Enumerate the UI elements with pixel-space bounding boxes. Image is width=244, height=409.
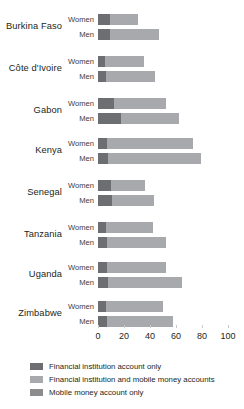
legend-label: Financial institution account only — [49, 362, 161, 371]
bar-row: Women — [0, 180, 244, 191]
bar-segment-fi-and-mm — [108, 153, 200, 164]
bar-track — [98, 262, 166, 273]
series-label-women: Women — [56, 262, 94, 273]
bar-segment-fi-only — [98, 195, 112, 206]
bar-row: Women — [0, 138, 244, 149]
series-label-men: Men — [56, 237, 94, 248]
legend-label: Mobile money account only — [49, 388, 143, 397]
series-label-men: Men — [56, 71, 94, 82]
series-label-women: Women — [56, 138, 94, 149]
bar-segment-fi-only — [98, 222, 106, 233]
legend-swatch-icon — [30, 363, 43, 371]
series-label-men: Men — [56, 195, 94, 206]
bar-segment-fi-and-mm — [106, 222, 153, 233]
bar-row: Women — [0, 14, 244, 25]
bar-segment-fi-and-mm — [106, 71, 155, 82]
x-tick-label: 40 — [145, 331, 155, 342]
bar-segment-fi-and-mm — [108, 277, 182, 288]
bar-track — [98, 153, 201, 164]
bar-row: Women — [0, 301, 244, 312]
bar-row: Men — [0, 277, 244, 288]
bar-segment-fi-and-mm — [110, 14, 139, 25]
bar-segment-fi-and-mm — [106, 301, 163, 312]
series-label-men: Men — [56, 113, 94, 124]
country-group: Côte d'IvoireWomenMen — [0, 56, 244, 84]
chart-legend: Financial institution account onlyFinanc… — [30, 361, 244, 400]
bar-track — [98, 180, 145, 191]
bar-row: Women — [0, 98, 244, 109]
x-axis: 020406080100 — [0, 325, 244, 349]
legend-label: Financial institution and mobile money a… — [49, 375, 215, 384]
bar-segment-fi-only — [98, 29, 110, 40]
bar-segment-fi-only — [98, 277, 108, 288]
bar-track — [98, 222, 153, 233]
bar-row: Women — [0, 262, 244, 273]
bar-track — [98, 56, 144, 67]
series-label-men: Men — [56, 29, 94, 40]
country-group: UgandaWomenMen — [0, 262, 244, 290]
x-tick-mark — [228, 325, 229, 328]
bar-segment-fi-and-mm — [121, 113, 178, 124]
bar-segment-fi-only — [98, 138, 107, 149]
bar-track — [98, 237, 166, 248]
x-tick-label: 20 — [119, 331, 129, 342]
series-label-women: Women — [56, 301, 94, 312]
legend-item[interactable]: Mobile money account only — [30, 387, 244, 398]
country-group: KenyaWomenMen — [0, 138, 244, 166]
bar-row: Men — [0, 153, 244, 164]
bar-track — [98, 14, 138, 25]
bar-segment-fi-and-mm — [114, 98, 166, 109]
bar-track — [98, 71, 155, 82]
bar-row: Men — [0, 195, 244, 206]
legend-swatch-icon — [30, 389, 43, 397]
bar-row: Men — [0, 71, 244, 82]
x-tick-mark — [150, 325, 151, 328]
bar-segment-fi-only — [98, 180, 111, 191]
bar-segment-fi-only — [98, 98, 114, 109]
plot-area: Burkina FasoWomenMenCôte d'IvoireWomenMe… — [0, 0, 244, 340]
x-tick-mark — [98, 325, 99, 328]
x-tick-mark — [202, 325, 203, 328]
country-group: GabonWomenMen — [0, 98, 244, 126]
x-tick-mark — [124, 325, 125, 328]
bar-track — [98, 98, 166, 109]
bar-segment-fi-only — [98, 153, 108, 164]
bar-segment-fi-and-mm — [111, 180, 145, 191]
bar-segment-fi-and-mm — [105, 56, 144, 67]
legend-item[interactable]: Financial institution account only — [30, 361, 244, 372]
bar-segment-fi-only — [98, 301, 106, 312]
bar-track — [98, 113, 179, 124]
series-label-women: Women — [56, 14, 94, 25]
series-label-women: Women — [56, 56, 94, 67]
bar-row: Women — [0, 56, 244, 67]
series-label-men: Men — [56, 153, 94, 164]
bar-segment-fi-and-mm — [107, 237, 166, 248]
series-label-women: Women — [56, 180, 94, 191]
x-tick-mark — [176, 325, 177, 328]
bar-segment-fi-only — [98, 14, 110, 25]
x-tick-label: 0 — [95, 331, 100, 342]
series-label-men: Men — [56, 277, 94, 288]
bar-track — [98, 29, 159, 40]
bar-track — [98, 138, 193, 149]
bar-row: Men — [0, 237, 244, 248]
bar-segment-fi-and-mm — [112, 195, 154, 206]
x-tick-label: 80 — [197, 331, 207, 342]
stacked-bar-chart: Burkina FasoWomenMenCôte d'IvoireWomenMe… — [0, 0, 244, 409]
country-group: TanzaniaWomenMen — [0, 222, 244, 250]
bar-row: Women — [0, 222, 244, 233]
bar-segment-fi-only — [98, 237, 107, 248]
bar-segment-fi-and-mm — [110, 29, 159, 40]
bar-row: Men — [0, 29, 244, 40]
x-tick-label: 100 — [220, 331, 235, 342]
series-label-women: Women — [56, 222, 94, 233]
bar-row: Men — [0, 113, 244, 124]
bar-segment-fi-and-mm — [107, 138, 193, 149]
series-label-women: Women — [56, 98, 94, 109]
legend-swatch-icon — [30, 376, 43, 384]
bar-track — [98, 195, 154, 206]
bar-segment-fi-only — [98, 262, 107, 273]
country-group: Burkina FasoWomenMen — [0, 14, 244, 42]
bar-segment-fi-only — [98, 113, 121, 124]
legend-item[interactable]: Financial institution and mobile money a… — [30, 374, 244, 385]
